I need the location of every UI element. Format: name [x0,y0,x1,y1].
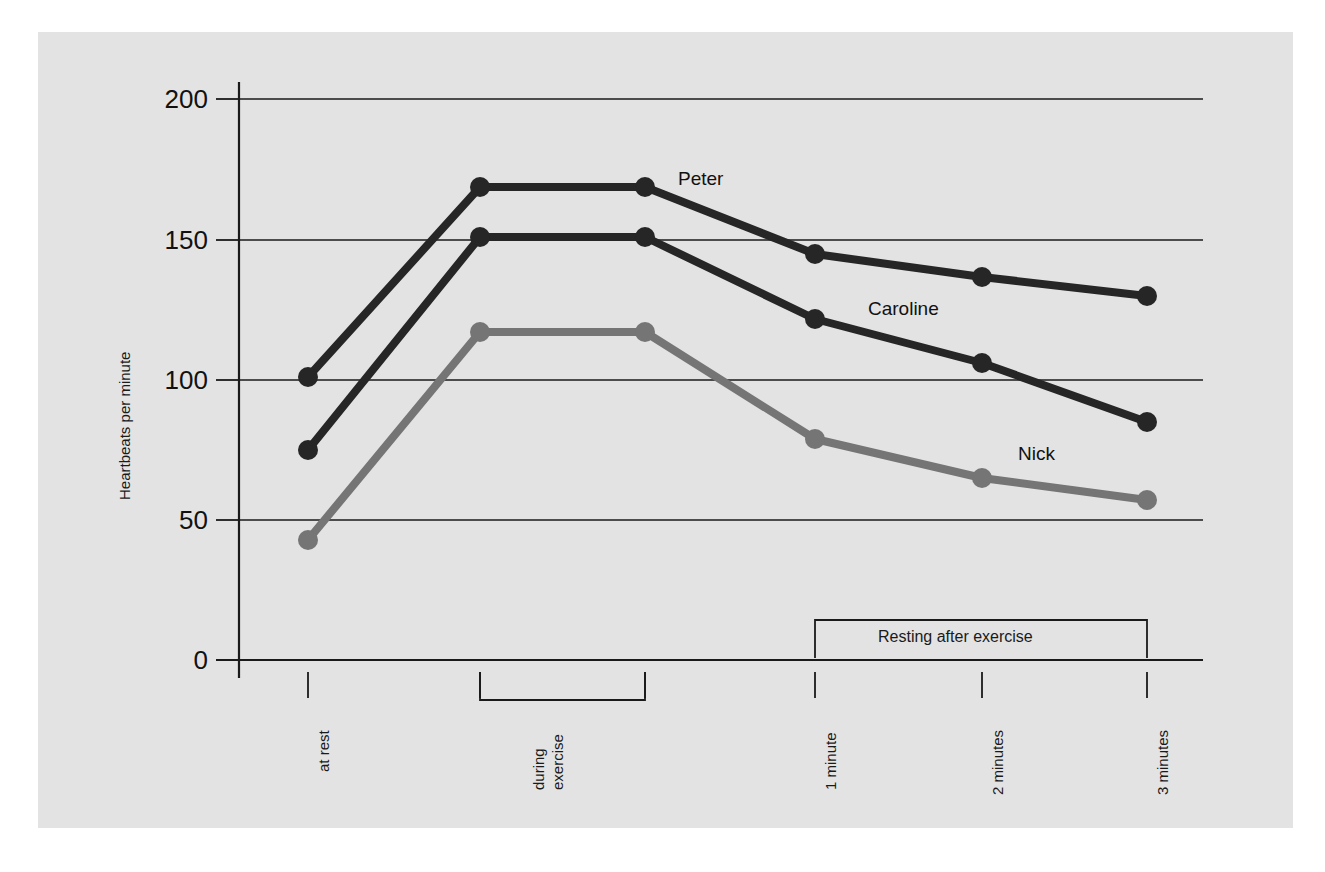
series-line-caroline [298,227,1157,460]
series-label-caroline: Caroline [868,298,939,320]
x-tick-label-3-minutes: 3 minutes [1154,730,1171,795]
y-tick-marks [216,99,239,660]
series-label-peter: Peter [678,168,723,190]
x-tick-label-during-exercise: during exercise [530,734,568,790]
series-markers-caroline [298,227,1157,460]
x-tick-label-1-minute: 1 minute [822,732,839,790]
x-tick-label-at-rest: at rest [315,730,332,772]
bracket-during-exercise [480,672,645,700]
x-tick-label-during-line2: exercise [549,734,566,790]
gridlines [239,99,1203,520]
y-tick-label-200: 200 [120,84,208,115]
x-tick-label-2-minutes: 2 minutes [989,730,1006,795]
y-tick-label-50: 50 [120,505,208,536]
chart-figure: Heartbeats per minute 200 150 100 50 0 a… [0,0,1325,872]
y-tick-label-100: 100 [120,365,208,396]
y-tick-label-150: 150 [120,225,208,256]
y-tick-label-0: 0 [120,645,208,676]
series-line-nick [298,322,1157,550]
x-tick-label-during-line1: during [530,748,547,790]
annotation-resting-after-exercise: Resting after exercise [878,628,1033,646]
series-markers-nick [298,322,1157,550]
x-tick-marks [308,672,1147,698]
series-label-nick: Nick [1018,443,1055,465]
line-chart-plot [0,0,1325,872]
series-line-peter [298,177,1157,387]
